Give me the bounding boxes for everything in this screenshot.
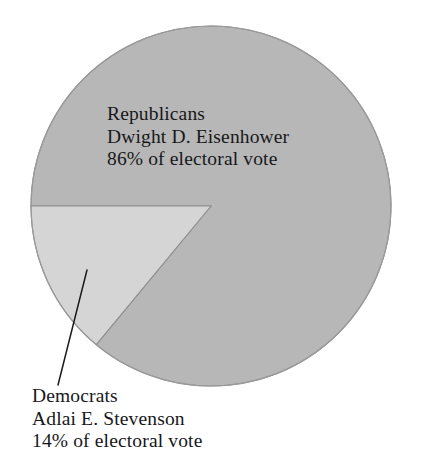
republicans-candidate-label: Dwight D. Eisenhower <box>107 126 289 149</box>
democrats-label-block: Democrats Adlai E. Stevenson 14% of elec… <box>32 385 202 453</box>
republicans-share-label: 86% of electoral vote <box>107 148 289 171</box>
republicans-party-label: Republicans <box>107 103 289 126</box>
democrats-candidate-label: Adlai E. Stevenson <box>32 408 202 431</box>
pie-chart-figure: Republicans Dwight D. Eisenhower 86% of … <box>0 0 422 476</box>
democrats-share-label: 14% of electoral vote <box>32 430 202 453</box>
republicans-label-block: Republicans Dwight D. Eisenhower 86% of … <box>107 103 289 171</box>
democrats-party-label: Democrats <box>32 385 202 408</box>
